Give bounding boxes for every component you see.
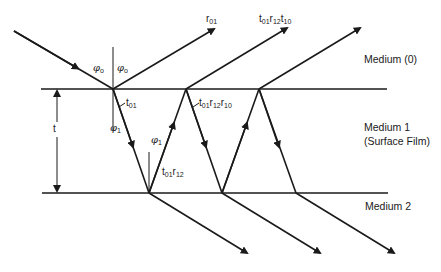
incident-ray-arrow [14,31,78,69]
angle-label-refracted-top: φ1 [110,123,121,133]
angle-label-reflected: φo [117,63,128,73]
transmitted-ray-1 [149,193,247,253]
label-leader-t01 [119,103,125,107]
ray-label-t01r12t10: t01r12t10 [259,14,291,24]
transmitted-ray-2 [222,193,320,253]
internal-ray-up-2-arrow [222,123,247,193]
ray-label-t01r12: t01r12 [162,167,184,177]
exit-ray-second [259,28,360,89]
ray-label-t01: t01 [126,98,137,108]
ray-label-r01: r01 [206,14,217,24]
reflected-ray-r01 [113,29,214,89]
medium-1-label: Medium 1 [364,122,410,133]
angle-label-incident: φo [93,63,104,73]
medium-0-label: Medium (0) [364,54,417,65]
angle-label-refracted-bottom: φ1 [151,135,162,145]
medium-1-sublabel: (Surface Film) [364,136,430,147]
medium-2-label: Medium 2 [365,201,411,212]
ray-label-t01r12r10: t01r12r10 [199,98,232,108]
internal-ray-down-3-arrow [259,89,279,147]
thickness-label: t [53,124,56,134]
